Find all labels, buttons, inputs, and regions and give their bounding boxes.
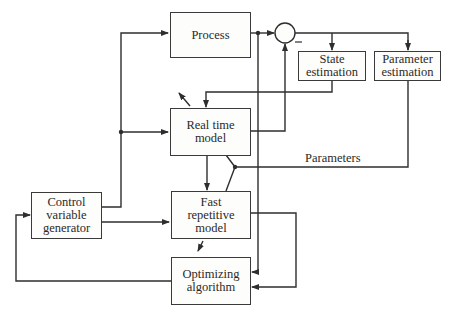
- block-state-estimation: State estimation: [298, 51, 366, 81]
- junction-dot-parameters: [233, 165, 237, 169]
- block-process: Process: [170, 12, 251, 58]
- block-parameter-estimation: Parameter estimation: [374, 51, 441, 81]
- block-state-estimation-label: State estimation: [306, 53, 358, 79]
- edge-fast-model-to-optimizer: [250, 213, 296, 287]
- block-real-time-model-label: Real time model: [186, 119, 234, 145]
- edge-real-time-model-to-sum: [250, 44, 285, 131]
- edge-sum-to-estimators: [295, 33, 408, 50]
- block-control-variable-generator: Control variable generator: [31, 192, 102, 239]
- edge-cvg-to-bus: [101, 33, 168, 207]
- adjust-arrow-fast-model: [198, 241, 203, 251]
- block-parameter-estimation-label: Parameter estimation: [381, 53, 433, 79]
- block-optimizing-algorithm: Optimizing algorithm: [171, 257, 251, 305]
- junction-dot-process-output: [256, 31, 260, 35]
- junction-dot-left-bus: [119, 130, 123, 134]
- adjust-arrow-real-time-model: [179, 93, 190, 106]
- edge-process-to-optimizer: [252, 33, 258, 272]
- summing-junction: [275, 23, 295, 43]
- edge-parameters-to-real-time-model: [226, 155, 235, 167]
- block-control-variable-generator-label: Control variable generator: [43, 196, 90, 235]
- block-fast-repetitive-model: Fast repetitive model: [171, 191, 251, 239]
- block-process-label: Process: [191, 29, 229, 42]
- edge-state-estimation-to-real-time-model: [206, 80, 332, 107]
- block-real-time-model: Real time model: [170, 108, 251, 156]
- edge-parameters-to-fast-model: [226, 167, 235, 191]
- block-fast-repetitive-model-label: Fast repetitive model: [187, 196, 234, 235]
- parameters-label: Parameters: [305, 151, 361, 166]
- block-optimizing-algorithm-label: Optimizing algorithm: [183, 268, 240, 294]
